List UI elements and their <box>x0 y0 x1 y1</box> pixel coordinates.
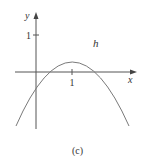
figure-caption: (c) <box>72 145 83 156</box>
y-axis-arrow-icon <box>34 12 39 19</box>
y-axis-label: y <box>24 10 30 21</box>
x-tick-label: 1 <box>70 77 75 88</box>
x-axis-label: x <box>127 74 133 85</box>
y-tick-label: 1 <box>26 30 31 41</box>
chart-figure: y x 1 1 h (c) <box>0 0 144 156</box>
curve-label-h: h <box>93 37 99 49</box>
